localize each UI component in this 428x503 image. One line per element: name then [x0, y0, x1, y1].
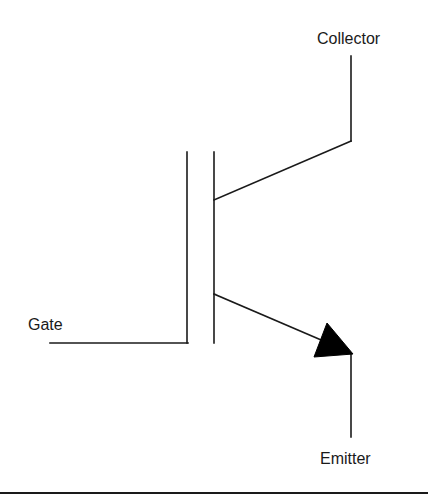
- igbt-symbol: [0, 0, 428, 503]
- gate-label: Gate: [28, 317, 63, 333]
- emitter-diagonal: [214, 294, 335, 346]
- collector-label: Collector: [317, 31, 380, 47]
- emitter-label: Emitter: [320, 451, 371, 467]
- bottom-rule: [0, 492, 428, 494]
- collector-diagonal: [214, 141, 351, 200]
